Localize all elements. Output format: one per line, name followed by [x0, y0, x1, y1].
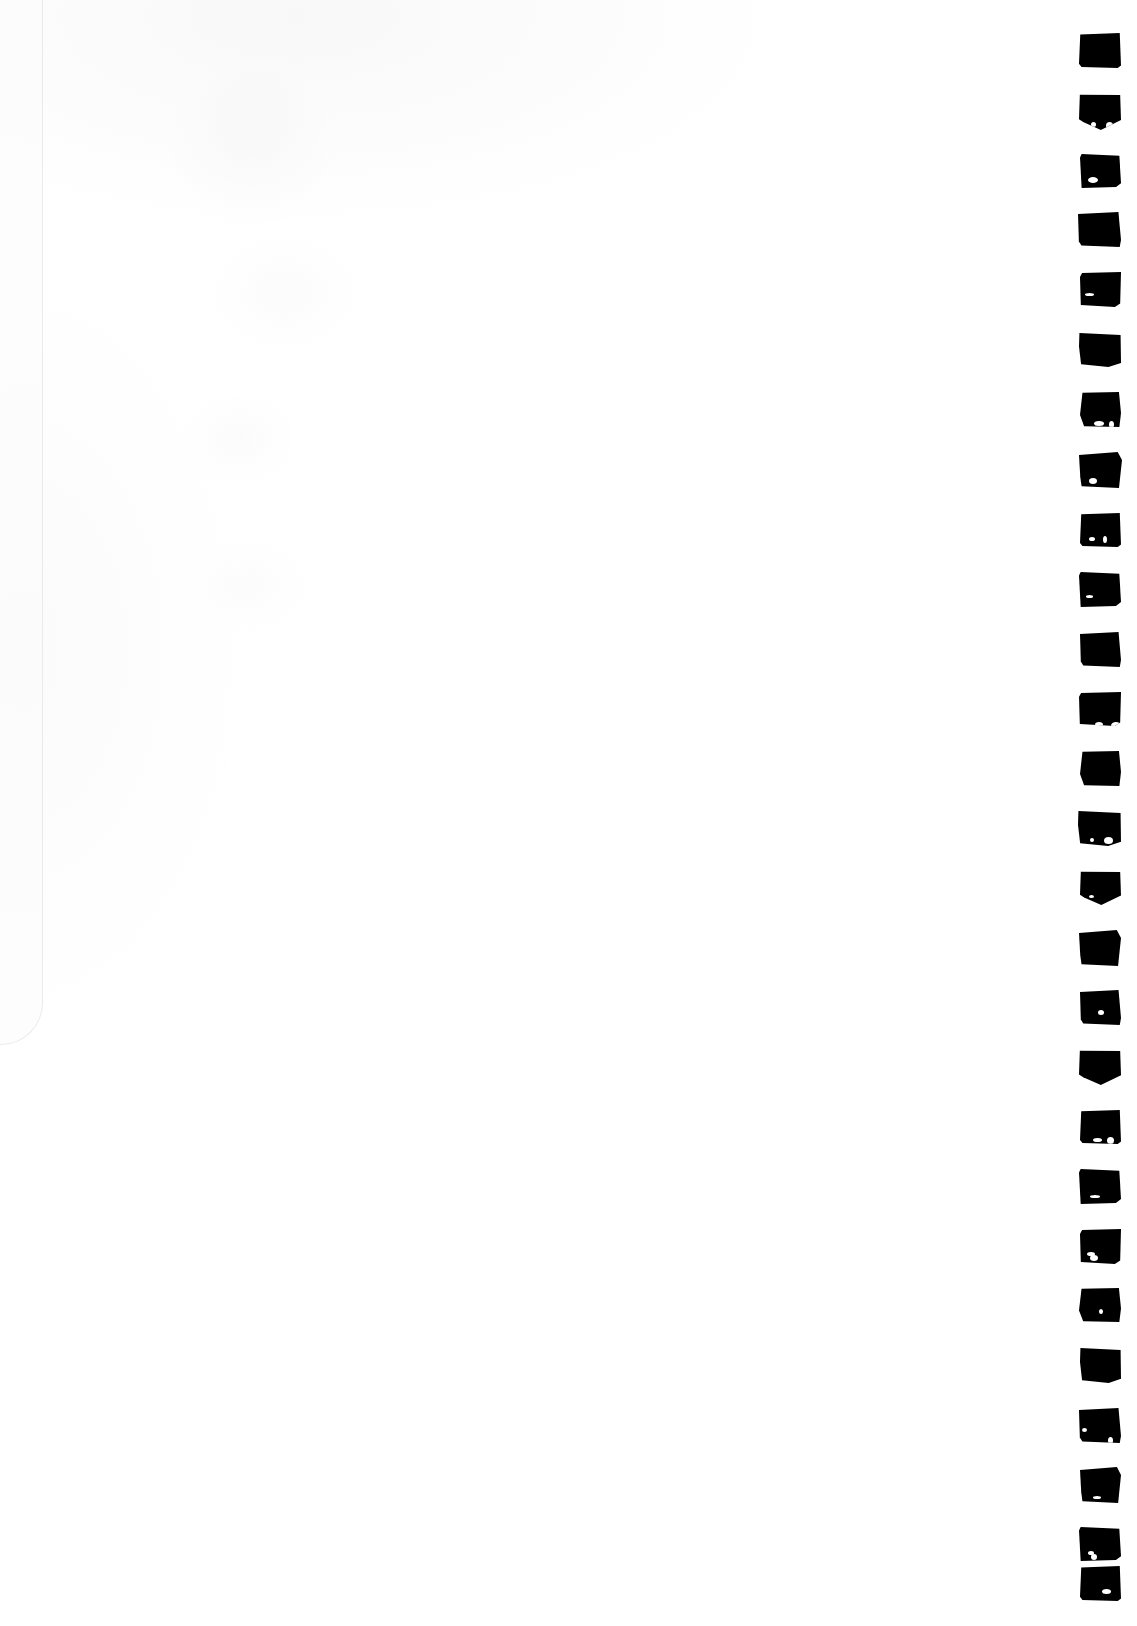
- margin-mark: [1080, 392, 1121, 427]
- margin-mark: [1079, 692, 1121, 726]
- margin-mark: [1079, 1169, 1121, 1204]
- margin-mark: [1079, 452, 1122, 488]
- ink-void: [1088, 177, 1098, 183]
- ink-void: [1093, 1496, 1101, 1499]
- ink-void: [1109, 421, 1114, 428]
- ink-void: [1090, 1255, 1098, 1261]
- ink-void: [1104, 837, 1113, 844]
- margin-mark: [1079, 930, 1121, 966]
- margin-mark: [1080, 1110, 1121, 1144]
- ink-void: [1087, 1252, 1095, 1256]
- ink-void: [1088, 1551, 1094, 1555]
- ink-void: [1090, 838, 1094, 842]
- ink-void: [1089, 537, 1095, 541]
- ink-void: [1089, 895, 1094, 898]
- ink-void: [1103, 536, 1107, 543]
- margin-mark: [1080, 1229, 1121, 1264]
- ink-void: [1098, 1010, 1104, 1015]
- ink-void: [1086, 595, 1093, 598]
- margin-mark: [1079, 33, 1121, 68]
- ink-void: [1090, 1195, 1100, 1198]
- margin-mark: [1080, 751, 1121, 786]
- margin-mark: [1078, 811, 1121, 846]
- paper-texture-overlay: [0, 0, 1137, 1626]
- margin-mark: [1080, 1348, 1121, 1383]
- ink-void: [1091, 122, 1096, 127]
- ink-void: [1095, 722, 1103, 727]
- ink-void: [1111, 722, 1121, 729]
- ink-void: [1093, 1138, 1102, 1142]
- margin-mark: [1079, 1050, 1121, 1085]
- ink-void: [1091, 1554, 1097, 1560]
- margin-mark: [1080, 154, 1121, 188]
- margin-mark: [1079, 1408, 1121, 1443]
- ink-void: [1107, 1137, 1114, 1144]
- ink-void: [1089, 478, 1097, 484]
- page-corner-edge: [0, 0, 43, 1045]
- margin-mark: [1079, 572, 1121, 607]
- ink-void: [1099, 1309, 1103, 1314]
- margin-mark-column: [0, 0, 1137, 1626]
- margin-mark: [1080, 272, 1121, 307]
- ink-void: [1108, 1437, 1113, 1444]
- margin-mark: [1080, 1566, 1121, 1601]
- margin-mark: [1080, 990, 1121, 1025]
- ink-void: [1102, 1589, 1111, 1594]
- margin-mark: [1079, 94, 1121, 130]
- margin-mark: [1080, 513, 1121, 547]
- margin-mark: [1078, 212, 1121, 247]
- margin-mark: [1079, 1527, 1121, 1561]
- ink-void: [1106, 122, 1113, 129]
- margin-mark: [1079, 1288, 1121, 1322]
- margin-mark: [1079, 333, 1121, 367]
- margin-mark: [1080, 632, 1121, 667]
- ink-void: [1082, 1428, 1087, 1432]
- margin-mark: [1080, 871, 1121, 905]
- scanned-page: [0, 0, 1137, 1626]
- margin-mark: [1080, 1467, 1121, 1503]
- ink-void: [1094, 421, 1104, 426]
- ink-void: [1085, 293, 1094, 296]
